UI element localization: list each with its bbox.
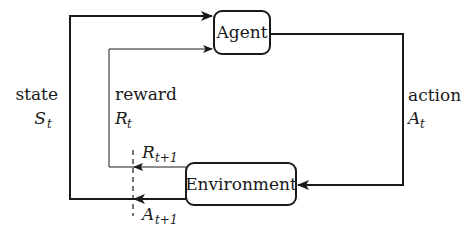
reward-subscript: t: [127, 117, 132, 131]
action-label: action: [408, 85, 461, 105]
agent-label: Agent: [216, 22, 268, 42]
environment-node: Environment: [185, 163, 297, 205]
reward-label: reward: [115, 84, 177, 104]
action-subscript: t: [420, 117, 425, 131]
next-reward-subscript: t+1: [155, 151, 178, 165]
state-symbol: S: [34, 108, 46, 128]
next-state-subscript: t+1: [155, 213, 178, 227]
state-label: state: [15, 84, 58, 104]
rl-diagram: Agent Environment state S t reward R t a…: [0, 0, 475, 237]
environment-label: Environment: [185, 174, 297, 194]
agent-node: Agent: [214, 11, 270, 54]
state-subscript: t: [47, 117, 52, 131]
next-state-symbol: A: [140, 204, 154, 224]
reward-symbol: R: [114, 108, 128, 128]
action-symbol: A: [406, 108, 420, 128]
next-reward-symbol: R: [141, 142, 155, 162]
